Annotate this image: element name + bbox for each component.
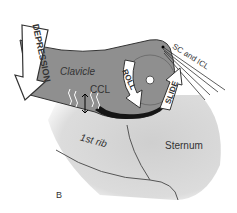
sternum-label: Sternum — [165, 140, 203, 151]
clavicle-depression-diagram: DEPRESSION Clavicle CCL ROLL SLIDE SC an… — [0, 0, 237, 213]
panel-label: B — [56, 190, 62, 200]
clavicle-label: Clavicle — [60, 66, 95, 77]
rotation-center — [146, 76, 154, 84]
ccl-label: CCL — [90, 84, 110, 95]
